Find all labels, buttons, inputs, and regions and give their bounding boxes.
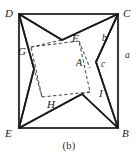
vertex-label-B: B <box>122 128 129 139</box>
geometry-diagram-svg <box>0 0 138 163</box>
vertex-label-I: I <box>99 88 103 99</box>
side-label-a: a <box>125 51 130 61</box>
side-label-c: c <box>101 60 105 70</box>
arm-left-lower <box>19 69 34 128</box>
figure-caption: (b) <box>0 140 138 151</box>
figure-container: D C B E G F I H A b c a (b) <box>0 0 138 163</box>
pinwheel-edge-bottom <box>19 94 118 128</box>
pinwheel-edge-left <box>19 14 34 128</box>
vertex-label-H: H <box>47 99 55 110</box>
vertex-label-F: F <box>72 33 79 44</box>
area-label-A: A <box>76 58 82 68</box>
vertex-label-G: G <box>18 46 26 57</box>
arm-topnotch-right <box>62 14 118 40</box>
dashed-G-to-topnotch <box>31 40 62 47</box>
arm-rightnotch-upper <box>96 14 118 62</box>
vertex-label-C: C <box>123 8 130 19</box>
vertex-label-E: E <box>5 128 12 139</box>
side-label-b: b <box>102 34 107 44</box>
vertex-label-D: D <box>5 8 13 19</box>
